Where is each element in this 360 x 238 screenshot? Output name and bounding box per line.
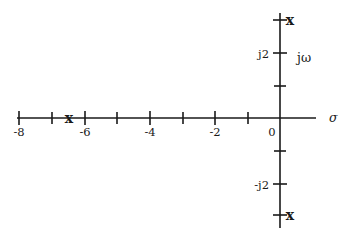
j-omega-axis-label: jω <box>295 50 311 65</box>
x-tick-label--8: -8 <box>13 125 24 139</box>
pole-zero-plot-figure: -8 -6 -4 -2 0 j2 -j2 σ jω x x x <box>0 0 360 238</box>
sigma-axis-label: σ <box>329 110 338 125</box>
y-tick-label--j2: -j2 <box>254 178 269 192</box>
x-tick-label--4: -4 <box>144 125 155 139</box>
y-tick-label-j2: j2 <box>256 47 269 61</box>
pole-real-negative: x <box>65 110 74 126</box>
pole-lower-imaginary: x <box>286 207 295 223</box>
pole-upper-imaginary: x <box>286 12 295 28</box>
x-tick-label--6: -6 <box>79 125 90 139</box>
label-layer: -8 -6 -4 -2 0 j2 -j2 σ jω x x x <box>0 0 360 238</box>
x-tick-label-0: 0 <box>268 125 275 139</box>
x-tick-label--2: -2 <box>209 125 220 139</box>
